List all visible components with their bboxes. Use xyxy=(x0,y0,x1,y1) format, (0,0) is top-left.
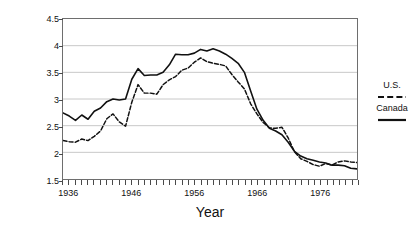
x-tick-mark xyxy=(100,180,101,185)
y-tick-label: 2.5 xyxy=(46,123,59,132)
x-tick-mark xyxy=(207,180,208,185)
x-tick-label: 1976 xyxy=(310,189,330,198)
legend-label-canada: Canada xyxy=(368,103,416,114)
x-tick-mark xyxy=(131,180,132,185)
x-tick-mark xyxy=(295,180,296,185)
x-tick-mark xyxy=(213,180,214,185)
x-tick-mark xyxy=(93,180,94,185)
legend-swatch-canada xyxy=(368,114,416,126)
x-tick-mark xyxy=(119,180,120,185)
y-tick-label: 4.5 xyxy=(46,15,59,24)
x-tick-mark xyxy=(339,180,340,185)
x-tick-mark xyxy=(163,180,164,185)
y-tick-mark xyxy=(59,19,63,20)
x-tick-mark xyxy=(327,180,328,185)
x-tick-mark xyxy=(144,180,145,185)
x-tick-mark xyxy=(245,180,246,185)
x-axis-label: Year xyxy=(62,204,358,220)
x-tick-label: 1956 xyxy=(184,189,204,198)
chart-legend: U.S.Canada xyxy=(368,80,416,126)
x-axis: 19361946195619661976 xyxy=(62,180,358,206)
x-tick-mark xyxy=(112,180,113,185)
x-tick-mark xyxy=(358,180,359,185)
x-tick-mark xyxy=(219,180,220,185)
x-tick-mark xyxy=(150,180,151,185)
x-tick-mark xyxy=(156,180,157,185)
chart-figure: 1.522.533.544.5 Live Births per Woman 19… xyxy=(0,0,419,237)
legend-label-u-s: U.S. xyxy=(368,80,416,91)
y-tick-label: 1.5 xyxy=(46,177,59,186)
x-tick-mark xyxy=(276,180,277,185)
x-tick-label: 1936 xyxy=(58,189,78,198)
y-tick-mark xyxy=(59,73,63,74)
x-tick-mark xyxy=(75,180,76,185)
gridlines xyxy=(63,46,357,153)
x-tick-mark xyxy=(62,180,63,185)
x-tick-mark xyxy=(194,180,195,185)
y-tick-mark xyxy=(59,46,63,47)
x-tick-mark xyxy=(264,180,265,185)
x-tick-mark xyxy=(345,180,346,185)
x-tick-mark xyxy=(320,180,321,185)
x-tick-mark xyxy=(238,180,239,185)
x-tick-mark xyxy=(257,180,258,185)
x-tick-mark xyxy=(352,180,353,185)
series-lines xyxy=(63,49,357,169)
y-tick-label: 3.5 xyxy=(46,69,59,78)
x-tick-mark xyxy=(188,180,189,185)
x-tick-mark xyxy=(301,180,302,185)
x-tick-mark xyxy=(81,180,82,185)
x-tick-mark xyxy=(106,180,107,185)
x-tick-mark xyxy=(68,180,69,185)
x-tick-mark xyxy=(314,180,315,185)
x-tick-mark xyxy=(232,180,233,185)
plot-area: 1.522.533.544.5 xyxy=(62,18,358,180)
x-tick-mark xyxy=(169,180,170,185)
x-tick-mark xyxy=(282,180,283,185)
y-tick-mark xyxy=(59,127,63,128)
x-tick-mark xyxy=(226,180,227,185)
y-tick-mark xyxy=(59,154,63,155)
x-tick-mark xyxy=(270,180,271,185)
x-tick-mark xyxy=(251,180,252,185)
series-line-u-s xyxy=(63,58,357,166)
x-tick-mark xyxy=(333,180,334,185)
x-tick-label: 1946 xyxy=(121,189,141,198)
y-tick-mark xyxy=(59,100,63,101)
x-tick-mark xyxy=(289,180,290,185)
legend-swatch-u-s xyxy=(368,91,416,103)
x-tick-mark xyxy=(308,180,309,185)
x-tick-label: 1966 xyxy=(247,189,267,198)
x-tick-mark xyxy=(138,180,139,185)
x-tick-mark xyxy=(175,180,176,185)
plot-svg xyxy=(63,19,357,179)
x-tick-mark xyxy=(182,180,183,185)
x-tick-mark xyxy=(125,180,126,185)
x-tick-mark xyxy=(201,180,202,185)
series-line-canada xyxy=(63,49,357,169)
x-tick-mark xyxy=(87,180,88,185)
